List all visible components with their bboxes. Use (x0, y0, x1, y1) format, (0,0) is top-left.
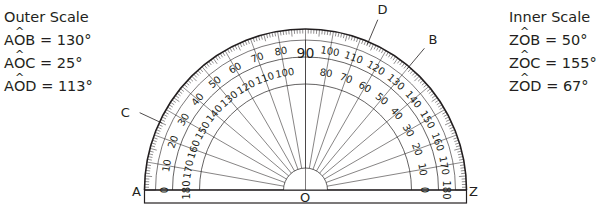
scale-tick (225, 51, 231, 61)
outer-scale-number: 100 (320, 44, 341, 58)
scale-tick (332, 31, 334, 42)
scale-tick (147, 162, 158, 164)
scale-tick (184, 84, 187, 87)
scale-tick (179, 91, 183, 94)
scale-tick (430, 93, 434, 96)
scale-tick (162, 117, 166, 119)
scale-tick (209, 61, 212, 65)
scale-tick (351, 36, 352, 40)
scale-tick (145, 176, 152, 177)
scale-tick (432, 98, 438, 102)
scale-tick (157, 127, 161, 129)
scale-tick (394, 58, 398, 64)
inner-scale-number: 100 (274, 66, 295, 80)
outer-scale-number: 10 (160, 158, 173, 172)
point-label-b: B (428, 32, 437, 47)
scale-tick (243, 42, 245, 46)
point-label-o: O (300, 190, 310, 205)
inner-scale-number: 10 (416, 162, 429, 176)
scale-tick (291, 30, 292, 37)
scale-tick (418, 78, 421, 81)
point-label-z: Z (469, 184, 478, 199)
scale-tick (438, 105, 442, 107)
scale-tick (357, 39, 361, 49)
scale-tick (250, 39, 254, 49)
scale-tick (237, 44, 240, 50)
scale-tick (459, 176, 466, 177)
outer-scale-number: 130 (385, 72, 407, 93)
scale-tick (362, 40, 364, 44)
scale-tick (356, 38, 357, 42)
scale-tick (391, 55, 393, 59)
inner-scale-number: 180 (181, 180, 192, 199)
scale-tick (377, 47, 379, 51)
scale-tick (206, 63, 209, 67)
scale-tick (220, 53, 222, 57)
scale-tick (374, 45, 376, 49)
scale-tick (451, 130, 455, 132)
scale-tick (424, 84, 427, 87)
scale-tick (258, 36, 259, 40)
inner-scale-number: 40 (388, 105, 405, 122)
scale-tick (442, 112, 446, 114)
scale-tick (256, 37, 257, 41)
scale-tick (420, 87, 428, 94)
scale-tick (232, 47, 234, 51)
scale-tick (230, 48, 232, 52)
scale-tick (167, 107, 171, 109)
pointer-line-d (367, 20, 378, 45)
inner-scale-number: 170 (181, 159, 195, 180)
scale-tick (152, 140, 156, 141)
scale-tick (196, 72, 199, 75)
scale-tick (218, 55, 220, 59)
scale-tick (175, 95, 179, 98)
scale-tick (180, 89, 183, 92)
outer-scale-number: 0 (159, 187, 170, 193)
scale-tick (412, 72, 415, 75)
scale-tick (154, 135, 164, 139)
scale-tick (437, 102, 441, 104)
scale-tick (364, 41, 366, 45)
scale-tick (158, 125, 162, 127)
scale-tick (400, 61, 403, 65)
outer-scale-number: 120 (365, 58, 387, 77)
scale-tick (213, 58, 217, 64)
scale-tick (170, 102, 174, 104)
scale-tick (414, 76, 419, 81)
scale-tick (245, 41, 247, 45)
outer-scale-number: 20 (166, 134, 181, 150)
point-label-a: A (132, 184, 141, 199)
scale-tick (397, 60, 400, 64)
scale-tick (215, 57, 218, 61)
scale-tick (261, 35, 262, 39)
scale-tick (381, 49, 383, 53)
scale-tick (240, 43, 242, 47)
scale-tick (371, 44, 374, 50)
inner-scale-number: 20 (410, 141, 425, 157)
scale-tick (386, 52, 388, 56)
scale-tick (152, 143, 156, 144)
scale-tick (440, 107, 444, 109)
scale-tick (435, 100, 439, 103)
scale-tick (194, 74, 197, 77)
scale-tick (381, 51, 387, 61)
scale-tick (388, 53, 390, 57)
point-label-d: D (378, 2, 388, 17)
scale-tick (435, 110, 445, 116)
point-label-c: C (121, 105, 130, 120)
scale-tick (446, 119, 450, 121)
scale-tick (429, 91, 433, 94)
scale-tick (204, 65, 207, 68)
scale-tick (393, 57, 396, 61)
scale-tick (379, 48, 381, 52)
scale-tick (192, 76, 197, 81)
scale-tick (454, 140, 458, 141)
scale-tick (345, 34, 347, 41)
scale-tick (445, 117, 449, 119)
scale-tick (432, 95, 436, 98)
scale-tick (166, 110, 176, 116)
scale-tick (153, 138, 157, 139)
scale-tick (177, 93, 181, 96)
scale-tick (190, 78, 193, 81)
pointer-line-c (140, 113, 163, 124)
